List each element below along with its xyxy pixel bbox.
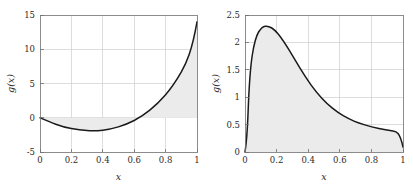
left-plot-panel: 0 0.2 0.4 0.6 0.8 1 -5 0 5 10 15 x g(x) xyxy=(0,0,206,186)
left-plot-area-fill xyxy=(40,22,197,131)
right-plot-svg: 0 0.2 0.4 0.6 0.8 1 0 0.5 1 1.5 2 2.5 x … xyxy=(206,0,413,186)
right-yaxis-label: g(x) xyxy=(210,74,221,93)
right-plot-panel: 0 0.2 0.4 0.6 0.8 1 0 0.5 1 1.5 2 2.5 x … xyxy=(206,0,413,186)
right-xtick-label-2: 0.4 xyxy=(301,155,315,165)
left-plot-xticks xyxy=(40,149,197,153)
left-xaxis-label: x xyxy=(116,171,122,182)
left-xtick-label-2: 0.4 xyxy=(96,155,110,165)
right-ytick-label-4: 2 xyxy=(235,37,240,47)
right-ytick-label-3: 1.5 xyxy=(226,65,240,75)
left-xtick-label-4: 0.8 xyxy=(159,155,173,165)
left-xtick-label-0: 0 xyxy=(37,155,42,165)
left-plot-svg: 0 0.2 0.4 0.6 0.8 1 -5 0 5 10 15 x g(x) xyxy=(0,0,206,186)
left-plot-yticks xyxy=(40,15,44,152)
right-ytick-label-0: 0 xyxy=(235,147,240,157)
left-ytick-label-2: 5 xyxy=(30,79,35,89)
right-ytick-label-2: 1 xyxy=(235,92,240,102)
left-ytick-label-3: 10 xyxy=(24,44,35,54)
right-xtick-label-4: 0.8 xyxy=(365,155,379,165)
figure-container: 0 0.2 0.4 0.6 0.8 1 -5 0 5 10 15 x g(x) xyxy=(0,0,413,186)
left-ytick-label-0: -5 xyxy=(27,147,35,157)
right-ytick-label-1: 0.5 xyxy=(226,120,240,130)
left-xtick-label-1: 0.2 xyxy=(65,155,79,165)
left-yaxis-label: g(x) xyxy=(5,74,16,93)
left-xtick-label-3: 0.6 xyxy=(127,155,141,165)
left-xtick-label-5: 1 xyxy=(194,155,199,165)
right-ytick-label-5: 2.5 xyxy=(226,10,240,20)
left-ytick-label-4: 15 xyxy=(24,10,35,20)
right-plot-area-fill xyxy=(245,26,403,152)
right-xtick-label-1: 0.2 xyxy=(270,155,284,165)
right-xtick-label-5: 1 xyxy=(400,155,405,165)
left-ytick-label-1: 0 xyxy=(30,113,35,123)
right-xtick-label-3: 0.6 xyxy=(333,155,347,165)
right-xaxis-label: x xyxy=(321,171,327,182)
right-xtick-label-0: 0 xyxy=(242,155,247,165)
